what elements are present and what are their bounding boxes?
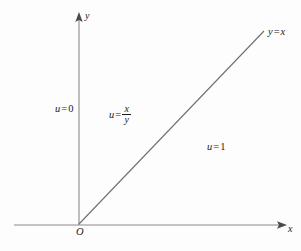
math-diagram: y x O y=x u=0 u=xy u=1 (0, 0, 301, 251)
curve-label-lhs: y (268, 26, 273, 37)
region-label-u-equals-x-over-y: u=xy (109, 104, 131, 126)
region-2-rhs: 1 (220, 141, 225, 152)
region-label-u-equals-1: u=1 (207, 142, 225, 153)
fraction-denominator: y (122, 115, 130, 126)
curve-label-operator: = (273, 26, 281, 37)
origin-label: O (76, 227, 84, 238)
fraction-numerator: x (122, 104, 130, 115)
region-1-operator: = (114, 110, 122, 121)
fraction-x-over-y: xy (122, 104, 131, 126)
curve-label-rhs: x (281, 26, 286, 37)
x-axis-label: x (288, 224, 292, 234)
region-2-operator: = (212, 141, 220, 152)
curve-label-y-equals-x: y=x (268, 27, 285, 38)
region-0-rhs: 0 (68, 103, 73, 114)
diagram-canvas (0, 0, 301, 251)
y-axis-label: y (85, 11, 89, 21)
region-label-u-equals-0: u=0 (55, 104, 73, 115)
region-0-operator: = (60, 103, 68, 114)
diagonal-line-y-equals-x (79, 31, 264, 224)
